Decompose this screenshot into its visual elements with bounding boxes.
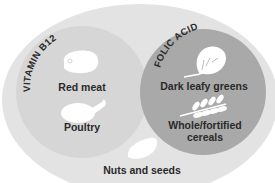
- venn-diagram: VITAMIN B12 FOLIC ACID Red meat Poultry …: [0, 0, 275, 183]
- dark-leafy-greens-label: Dark leafy greens: [160, 80, 248, 92]
- whole-fortified-label: Whole/fortified: [168, 119, 242, 131]
- steak-icon: [64, 50, 98, 73]
- nuts-and-seeds-label: Nuts and seeds: [103, 164, 181, 176]
- cereals-label: cereals: [187, 131, 223, 143]
- poultry-label: Poultry: [64, 121, 100, 133]
- red-meat-label: Red meat: [58, 81, 106, 93]
